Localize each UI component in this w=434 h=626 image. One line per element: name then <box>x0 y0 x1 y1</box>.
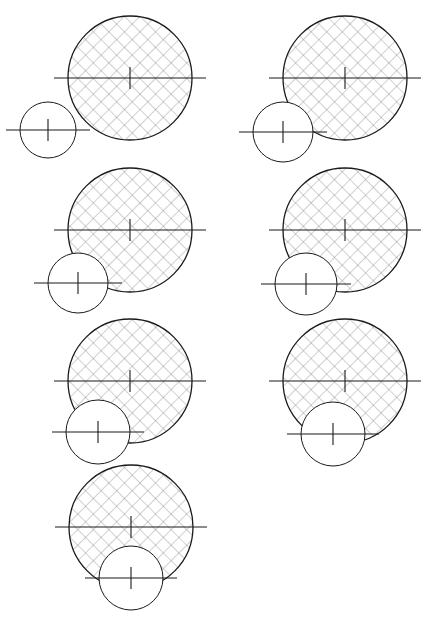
circle-sequence-figure: Circle tangency and intersection sequenc… <box>0 0 434 626</box>
diagram-root: Circle tangency and intersection sequenc… <box>0 0 434 626</box>
